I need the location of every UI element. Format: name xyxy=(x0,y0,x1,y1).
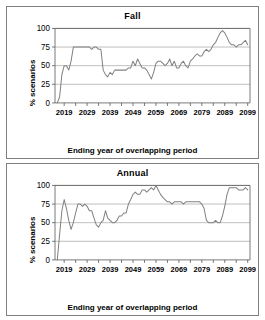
series-line xyxy=(57,31,247,103)
chart-panel-fall: Fall 02550751002019202920392049205920692… xyxy=(6,6,259,159)
svg-text:25: 25 xyxy=(41,80,50,89)
svg-text:100: 100 xyxy=(37,24,51,33)
plot-area-annual: 0255075100201920292039204920592069207920… xyxy=(7,164,258,315)
svg-text:2069: 2069 xyxy=(171,108,188,117)
figure-container: Fall 02550751002019202920392049205920692… xyxy=(0,0,265,320)
svg-text:2049: 2049 xyxy=(125,265,142,274)
plot-area-fall: 0255075100201920292039204920592069207920… xyxy=(7,7,258,158)
x-axis-label-annual: Ending year of overlapping period xyxy=(7,303,258,312)
svg-text:2099: 2099 xyxy=(239,108,256,117)
svg-text:2059: 2059 xyxy=(148,265,165,274)
svg-text:2039: 2039 xyxy=(102,265,119,274)
svg-text:2019: 2019 xyxy=(56,108,73,117)
svg-text:2039: 2039 xyxy=(102,108,119,117)
svg-text:2079: 2079 xyxy=(193,108,210,117)
svg-text:75: 75 xyxy=(41,200,50,209)
svg-text:50: 50 xyxy=(41,218,50,227)
svg-text:0: 0 xyxy=(46,99,51,108)
svg-text:2079: 2079 xyxy=(193,265,210,274)
svg-text:100: 100 xyxy=(37,181,51,190)
chart-panel-annual: Annual 025507510020192029203920492059206… xyxy=(6,163,259,316)
svg-text:2089: 2089 xyxy=(216,265,233,274)
svg-text:2089: 2089 xyxy=(216,108,233,117)
svg-text:2029: 2029 xyxy=(79,108,96,117)
x-axis-label-fall: Ending year of overlapping period xyxy=(7,146,258,155)
svg-text:2029: 2029 xyxy=(79,265,96,274)
svg-text:2069: 2069 xyxy=(171,265,188,274)
svg-text:75: 75 xyxy=(41,43,50,52)
svg-text:50: 50 xyxy=(41,61,50,70)
svg-text:2059: 2059 xyxy=(148,108,165,117)
y-axis-label-fall: % scenarios xyxy=(28,59,37,106)
svg-text:25: 25 xyxy=(41,237,50,246)
svg-text:2099: 2099 xyxy=(239,265,256,274)
svg-text:2019: 2019 xyxy=(56,265,73,274)
svg-text:0: 0 xyxy=(46,256,51,265)
y-axis-label-annual: % scenarios xyxy=(28,216,37,263)
svg-text:2049: 2049 xyxy=(125,108,142,117)
